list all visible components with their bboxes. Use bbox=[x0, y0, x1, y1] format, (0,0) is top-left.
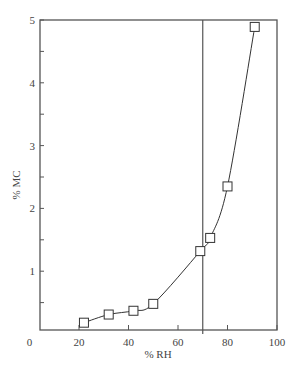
y-tick-label: 5 bbox=[30, 14, 36, 26]
y-axis-label: % MC bbox=[10, 170, 22, 199]
axis-ticks bbox=[40, 20, 277, 330]
x-axis-label: % RH bbox=[144, 348, 171, 360]
plot-frame bbox=[40, 20, 277, 330]
data-point-marker bbox=[79, 318, 88, 327]
data-point-marker bbox=[104, 310, 113, 319]
x-tick-label: 0 bbox=[27, 336, 33, 348]
x-tick-label: 60 bbox=[173, 336, 185, 348]
mc-rh-chart: 02040608010012345 % RH % MC bbox=[0, 0, 295, 370]
y-tick-label: 3 bbox=[30, 140, 36, 152]
y-tick-label: 2 bbox=[30, 202, 36, 214]
data-point-marker bbox=[223, 182, 232, 191]
y-tick-label: 4 bbox=[30, 77, 36, 89]
chart-container: 02040608010012345 % RH % MC bbox=[0, 0, 295, 370]
data-markers bbox=[79, 22, 259, 327]
data-point-marker bbox=[149, 299, 158, 308]
data-point-marker bbox=[250, 22, 259, 31]
data-point-marker bbox=[129, 306, 138, 315]
tick-labels: 02040608010012345 bbox=[27, 14, 286, 348]
x-tick-label: 20 bbox=[74, 336, 86, 348]
x-tick-label: 100 bbox=[269, 336, 286, 348]
fitted-curve bbox=[84, 27, 255, 323]
data-point-marker bbox=[206, 233, 215, 242]
data-point-marker bbox=[196, 247, 205, 256]
y-tick-label: 1 bbox=[30, 265, 36, 277]
x-tick-label: 40 bbox=[123, 336, 135, 348]
x-tick-label: 80 bbox=[222, 336, 234, 348]
